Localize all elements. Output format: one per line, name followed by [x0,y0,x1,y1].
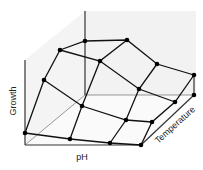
growth-axis-label: Growth [8,86,18,115]
back-wall [85,11,196,95]
growth-surface-diagram: Growth pH Temperature [0,0,203,170]
ph-axis-label: pH [76,152,88,162]
